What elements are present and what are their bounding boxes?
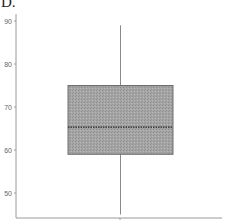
y-tick-label: 70 bbox=[4, 104, 12, 111]
iqr-box bbox=[68, 86, 173, 155]
y-tick-label: 50 bbox=[4, 190, 12, 197]
y-tick-label: 90 bbox=[4, 18, 12, 25]
x-axis bbox=[16, 218, 222, 220]
y-axis: 5060708090 bbox=[4, 14, 16, 218]
box-plot-chart: 5060708090 bbox=[0, 0, 225, 221]
y-tick-label: 60 bbox=[4, 147, 12, 154]
y-tick-label: 80 bbox=[4, 61, 12, 68]
box-series bbox=[68, 25, 173, 214]
